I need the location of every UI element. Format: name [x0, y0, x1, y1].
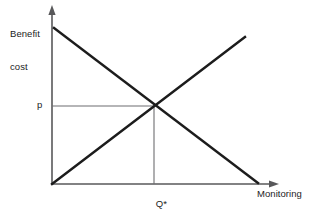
y-axis-label-line-1: Benefit: [10, 28, 40, 39]
y-axis-label: Benefit cost: [10, 6, 40, 94]
price-label: p: [37, 99, 42, 110]
diagram-canvas: [0, 0, 318, 210]
marginal-cost-curve: [52, 37, 245, 184]
x-axis-arrowhead-icon: [269, 180, 279, 187]
benefit-cost-monitoring-diagram: Benefit cost Monitoring p Q*: [0, 0, 318, 210]
y-axis-label-line-2: cost: [10, 61, 40, 72]
quantity-label-star: *: [163, 198, 167, 209]
y-axis-arrowhead-icon: [48, 5, 55, 15]
x-axis-label: Monitoring: [257, 188, 302, 199]
quantity-label: Q*: [145, 187, 167, 210]
